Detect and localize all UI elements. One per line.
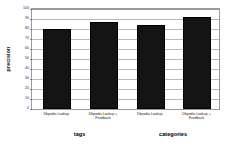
gridline [32,9,219,10]
y-axis-tick [30,79,32,80]
bar [183,17,211,109]
bar [90,22,118,109]
plot-area: 0102030405060708090100 [31,8,220,110]
y-axis-tick-label: 20 [25,87,29,91]
bar [137,25,165,109]
y-axis-tick [30,9,32,10]
y-axis-tick [30,109,32,110]
category-label: Dbpedia Lookup +Feedback [166,112,226,121]
y-axis-title-container: precision [0,0,16,118]
y-axis-tick [30,39,32,40]
y-axis-tick-label: 70 [25,37,29,41]
y-axis-tick-label: 60 [25,47,29,51]
y-axis-tick [30,59,32,60]
y-axis-tick-label: 50 [25,57,29,61]
group-label-tags: tags [40,131,120,137]
y-axis-tick-label: 40 [25,67,29,71]
y-axis-tick [30,19,32,20]
y-axis-tick-label: 10 [25,97,29,101]
y-axis-tick-label: 80 [25,27,29,31]
y-axis-tick [30,99,32,100]
y-axis-tick-label: 90 [25,17,29,21]
y-axis-tick [30,89,32,90]
group-label-categories: categories [133,131,213,137]
y-axis-title: precision [5,47,11,72]
gridline [32,109,219,110]
y-axis-tick [30,69,32,70]
plot-inner: 0102030405060708090100 [32,9,219,109]
y-axis-tick [30,49,32,50]
y-axis-tick-label: 100 [23,7,29,11]
bar-chart-figure: precision 0102030405060708090100 Dbpedia… [0,0,238,151]
y-axis-tick [30,29,32,30]
y-axis-tick-label: 30 [25,77,29,81]
y-axis-tick-label: 0 [27,107,29,111]
bar [43,29,71,109]
